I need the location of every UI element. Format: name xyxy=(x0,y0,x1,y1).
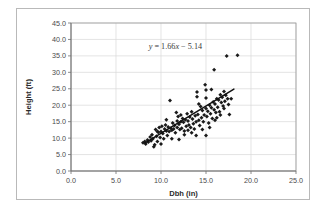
scatter-plot: 0.05.010.015.020.025.030.035.040.045.00.… xyxy=(17,9,309,199)
x-tick-label: 20.0 xyxy=(244,176,258,185)
x-tick-label: 0.0 xyxy=(66,176,76,185)
y-tick-label: 30.0 xyxy=(52,68,66,77)
y-tick-label: 25.0 xyxy=(52,84,66,93)
y-tick-label: 15.0 xyxy=(52,117,66,126)
x-axis-ticks: 0.05.010.015.020.025.0 xyxy=(66,171,303,185)
y-tick-label: 45.0 xyxy=(52,19,66,28)
x-axis-title: Dbh (in) xyxy=(169,189,198,198)
y-tick-label: 5.0 xyxy=(56,150,66,159)
x-tick-label: 10.0 xyxy=(154,176,168,185)
y-axis-ticks: 0.05.010.015.020.025.030.035.040.045.0 xyxy=(52,19,71,176)
y-tick-label: 20.0 xyxy=(52,101,66,110)
y-axis-title: Height (ft) xyxy=(24,79,33,115)
chart-container: 0.05.010.015.020.025.030.035.040.045.00.… xyxy=(16,8,310,200)
y-tick-label: 10.0 xyxy=(52,134,66,143)
y-tick-label: 0.0 xyxy=(56,167,66,176)
x-tick-label: 15.0 xyxy=(199,176,213,185)
y-tick-label: 40.0 xyxy=(52,35,66,44)
x-tick-label: 5.0 xyxy=(111,176,121,185)
y-tick-label: 35.0 xyxy=(52,51,66,60)
trendline-equation-label: y = 1.66x − 5.14 xyxy=(148,42,202,51)
x-tick-label: 25.0 xyxy=(289,176,303,185)
